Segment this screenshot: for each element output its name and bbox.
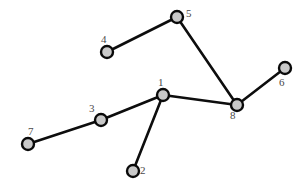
graph-node-label-2: 2 (140, 165, 146, 176)
graph-edge-4-5[interactable] (107, 17, 177, 52)
graph-edge-3-7[interactable] (28, 120, 101, 144)
graph-node-4[interactable] (101, 46, 113, 58)
graph-node-2[interactable] (127, 165, 139, 177)
graph-node-label-3: 3 (89, 103, 95, 114)
graph-node-label-8: 8 (230, 110, 236, 121)
graph-node-label-7: 7 (28, 126, 34, 137)
graph-node-6[interactable] (279, 62, 291, 74)
graph-node-label-4: 4 (101, 34, 107, 45)
graph-node-label-6: 6 (279, 77, 285, 88)
graph-node-3[interactable] (95, 114, 107, 126)
graph-node-1[interactable] (157, 89, 169, 101)
graph-svg-canvas (0, 0, 305, 189)
graph-edge-5-8[interactable] (177, 17, 237, 105)
graph-edge-6-8[interactable] (237, 68, 285, 105)
graph-edge-1-8[interactable] (163, 95, 237, 105)
graph-node-7[interactable] (22, 138, 34, 150)
graph-node-label-5: 5 (186, 8, 192, 19)
graph-node-label-1: 1 (158, 77, 164, 88)
graph-node-5[interactable] (171, 11, 183, 23)
graph-diagram: 12345678 (0, 0, 305, 189)
